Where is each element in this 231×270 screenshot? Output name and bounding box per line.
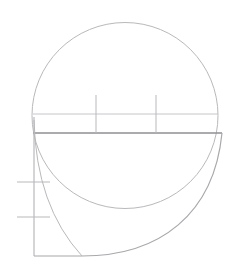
drawing-canvas [0,0,231,270]
geometric-figure [0,0,231,270]
